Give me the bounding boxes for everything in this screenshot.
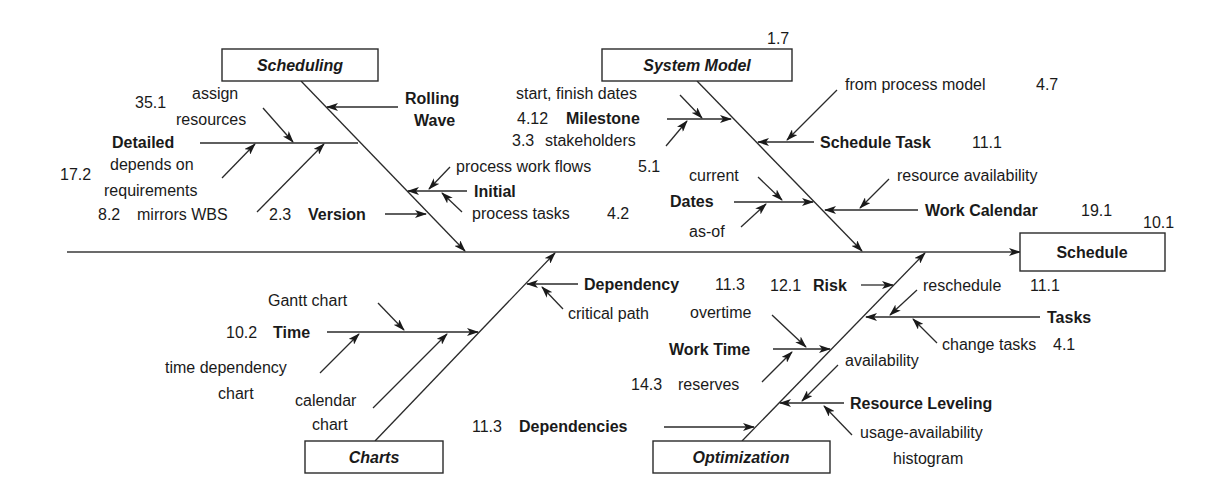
current-text: current	[689, 167, 739, 184]
gantt-text: Gantt chart	[268, 292, 348, 309]
reserves-text: reserves	[678, 376, 739, 393]
critical-path-text: critical path	[568, 305, 649, 322]
risk-ref: 12.1	[770, 277, 801, 294]
overtime-arrow	[772, 315, 806, 347]
optimization-box[interactable]: Optimization	[653, 441, 830, 473]
assign-line-1: assign	[192, 85, 238, 102]
charts-label: Charts	[349, 449, 400, 466]
depends-line-2: requirements	[104, 182, 197, 199]
workflows-text: process work flows	[456, 158, 591, 175]
resource-leveling-label: Resource Leveling	[850, 395, 992, 412]
gantt-arrow	[378, 303, 404, 330]
optimization-label: Optimization	[693, 449, 790, 466]
current-arrow	[758, 177, 782, 200]
reserves-arrow	[762, 352, 792, 382]
rolling-wave-label-2: Wave	[414, 112, 455, 129]
histogram-line-1: usage-availability	[860, 424, 983, 441]
resource-availability-arrow	[860, 179, 889, 208]
assign-arrow	[263, 108, 293, 142]
risk-label: Risk	[813, 277, 847, 294]
detailed-label: Detailed	[112, 134, 174, 151]
stakeholders-text: stakeholders	[545, 132, 636, 149]
from-process-arrow	[787, 90, 837, 140]
histogram-arrow	[824, 406, 852, 435]
wbs-ref: 8.2	[98, 206, 120, 223]
assign-line-2: resources	[176, 111, 246, 128]
change-tasks-ref: 4.1	[1053, 336, 1075, 353]
dates-label: Dates	[670, 193, 714, 210]
dependency-label: Dependency	[584, 276, 679, 293]
start-finish-text: start, finish dates	[516, 85, 637, 102]
as-of-text: as-of	[689, 223, 725, 240]
workflows-ref: 5.1	[638, 158, 660, 175]
category-charts: Charts 10.2 Time Gantt chart time depend…	[165, 253, 745, 473]
from-process-text: from process model	[845, 76, 986, 93]
tasks-label: Tasks	[1047, 309, 1091, 326]
resource-availability-text: resource availability	[897, 167, 1038, 184]
tdc-line-2: chart	[218, 385, 254, 402]
category-optimization: Optimization 12.1 Risk Tasks reschedule …	[472, 253, 1091, 473]
dependency-ref: 11.3	[715, 276, 745, 293]
system-model-label: System Model	[643, 57, 751, 74]
process-tasks-arrow	[442, 193, 462, 212]
assign-ref: 35.1	[135, 94, 166, 111]
stakeholders-arrow	[666, 121, 687, 146]
dependencies-label: Dependencies	[519, 418, 628, 435]
version-ref: 2.3	[269, 206, 291, 223]
charts-bone	[375, 253, 555, 441]
category-system-model: System Model 1.7 4.12 Milestone start, f…	[512, 30, 1112, 251]
wbs-arrow	[257, 144, 324, 212]
depends-line-1: depends on	[110, 156, 194, 173]
availability-text: availability	[845, 352, 919, 369]
work-calendar-ref: 19.1	[1081, 202, 1112, 219]
system-model-ref: 1.7	[767, 30, 789, 47]
from-process-ref: 4.7	[1036, 76, 1058, 93]
calendar-line-1: calendar	[295, 392, 357, 409]
scheduling-label: Scheduling	[257, 57, 343, 74]
time-label: Time	[273, 324, 310, 341]
calendar-arrow	[373, 334, 447, 408]
dependencies-ref: 11.3	[472, 418, 502, 435]
version-label: Version	[308, 206, 366, 223]
process-tasks-text: process tasks	[472, 205, 570, 222]
initial-label: Initial	[474, 183, 516, 200]
time-ref: 10.2	[226, 324, 257, 341]
change-tasks-arrow	[913, 319, 937, 343]
depends-arrow	[222, 144, 255, 178]
histogram-line-2: histogram	[893, 450, 963, 467]
milestone-label: Milestone	[566, 110, 640, 127]
calendar-line-2: chart	[312, 416, 348, 433]
tdc-line-1: time dependency	[165, 359, 287, 376]
overtime-text: overtime	[690, 304, 751, 321]
fishbone-diagram: Schedule 10.1 Scheduling Rolling Wave De…	[0, 0, 1230, 498]
depends-ref: 17.2	[60, 166, 91, 183]
rolling-wave-label-1: Rolling	[405, 90, 459, 107]
reschedule-ref: 11.1	[1030, 277, 1060, 294]
milestone-ref: 4.12	[517, 110, 548, 127]
time-dependency-arrow	[320, 334, 359, 373]
category-scheduling: Scheduling Rolling Wave Detailed 35.1 as…	[60, 49, 660, 251]
reserves-ref: 14.3	[631, 376, 662, 393]
scheduling-box[interactable]: Scheduling	[222, 49, 378, 81]
process-tasks-ref: 4.2	[607, 205, 629, 222]
change-tasks-text: change tasks	[942, 336, 1036, 353]
reschedule-arrow	[890, 290, 917, 315]
stakeholders-ref: 3.3	[512, 132, 534, 149]
critical-path-arrow	[542, 287, 563, 309]
start-finish-arrow	[680, 95, 702, 118]
schedule-task-ref: 11.1	[972, 134, 1002, 151]
work-time-label: Work Time	[669, 341, 750, 358]
reschedule-text: reschedule	[923, 277, 1001, 294]
effect-ref: 10.1	[1143, 214, 1174, 231]
work-calendar-label: Work Calendar	[925, 202, 1038, 219]
effect-label: Schedule	[1056, 244, 1127, 261]
effect-schedule-box[interactable]: Schedule	[1020, 233, 1165, 271]
wbs-text: mirrors WBS	[137, 206, 228, 223]
schedule-task-label: Schedule Task	[820, 134, 931, 151]
system-model-box[interactable]: System Model	[602, 49, 792, 81]
availability-arrow	[802, 365, 838, 401]
workflows-arrow	[429, 167, 450, 189]
charts-box[interactable]: Charts	[305, 441, 443, 473]
as-of-arrow	[741, 204, 766, 227]
